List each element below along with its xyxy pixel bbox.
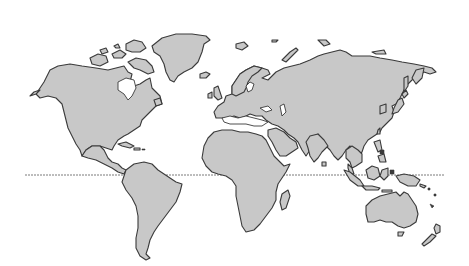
landmass-new-zealand-south [422,234,436,246]
landmass-puerto-rico [142,149,145,150]
mediterranean-sea [222,116,268,126]
landmass-arctic-island-5 [114,44,120,48]
landmass-pacific-islet-1 [428,188,430,190]
landmass-korea [380,104,386,114]
landmass-java [362,186,380,190]
landmass-novaya-zemlya [282,48,298,62]
landmass-borneo [366,166,380,180]
landmass-sri-lanka [322,162,326,166]
landmass-south-america [122,162,182,260]
landmass-solomon-islands [420,184,426,188]
landmass-tasmania [398,232,404,236]
landmass-central-america [82,146,126,174]
landmass-severnaya-zemlya [318,40,330,46]
world-map-canvas [0,0,469,266]
landmass-new-siberian-islands [372,50,386,54]
world-map [0,0,469,266]
landmass-new-guinea [396,174,420,186]
landmass-arctic-island-1 [90,54,108,66]
landmass-new-caledonia [430,204,434,208]
landmass-sulawesi [380,168,388,180]
landmass-new-zealand-north [434,224,440,234]
landmass-iceland [200,72,210,78]
landmass-franz-josef-land [272,40,278,42]
landmass-svalbard [236,42,248,50]
landmass-north-america [36,64,162,156]
landmass-sakhalin [404,76,408,92]
landmass-madagascar [280,190,290,210]
landmass-arctic-island-3 [126,40,146,52]
landmass-lesser-sunda [382,190,392,192]
landmass-philippines-mindanao [378,154,386,162]
landmass-great-britain [214,86,222,100]
landmass-ireland [208,92,212,98]
landmass-newfoundland [154,98,162,106]
landmass-cuba [118,142,134,148]
landmass-hispaniola [134,148,140,150]
landmass-philippines-visayas [380,150,384,154]
landmass-arctic-island-2 [112,50,126,58]
landmass-moluccas [390,170,394,174]
landmass-fiji [434,194,436,196]
landmass-arctic-island-4 [100,48,108,54]
landmass-australia [366,192,418,228]
landmass-baffin-island [128,58,154,74]
